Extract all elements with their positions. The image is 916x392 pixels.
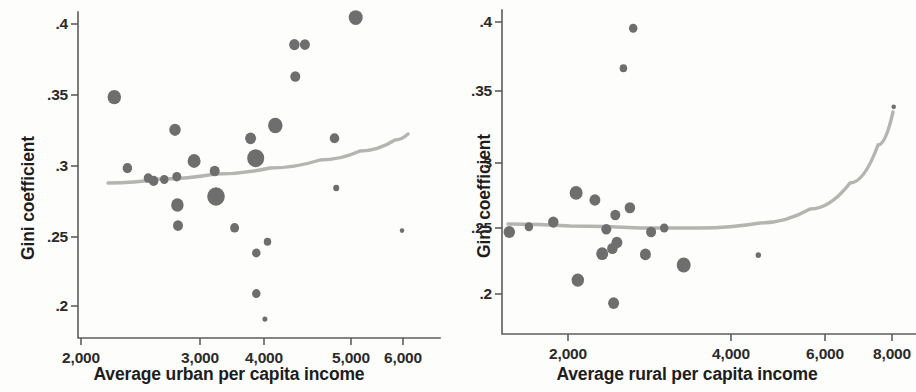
- data-point-bubble: [230, 223, 239, 233]
- data-point-bubble: [173, 220, 183, 231]
- x-axis-title: Average rural per capita income: [458, 364, 916, 385]
- data-point-bubble: [400, 228, 405, 233]
- x-axis-tick-label: 2,000: [549, 345, 587, 363]
- data-points: [504, 24, 896, 309]
- data-point-bubble: [245, 132, 256, 144]
- data-point-bubble: [289, 39, 300, 50]
- data-point-bubble: [504, 226, 516, 238]
- axes: [78, 12, 440, 338]
- x-axis-tick-label: 6,000: [806, 345, 844, 363]
- data-point-bubble: [268, 118, 283, 133]
- data-point-bubble: [149, 176, 159, 186]
- data-point-bubble: [525, 222, 534, 231]
- y-axis-title: Gini coefficient: [474, 134, 495, 258]
- data-points: [108, 10, 405, 322]
- data-point-bubble: [264, 238, 272, 246]
- x-axis-tick-label: 6,000: [384, 349, 422, 367]
- x-axis-tick-label: 2,000: [62, 349, 100, 367]
- data-point-bubble: [891, 104, 896, 109]
- fitted-trend-line: [508, 112, 893, 228]
- x-axis-tick-label: 3,000: [181, 349, 219, 367]
- data-point-bubble: [300, 39, 310, 50]
- data-point-bubble: [596, 247, 608, 260]
- chart-panel-urban: Gini coefficient Average urban per capit…: [0, 0, 458, 392]
- data-point-bubble: [570, 186, 583, 200]
- data-point-bubble: [108, 90, 122, 104]
- y-axis-tick-label: .25: [26, 228, 68, 246]
- y-axis-tick-label: .2: [26, 297, 68, 315]
- data-point-bubble: [160, 175, 169, 184]
- x-axis-tick-label: 4,000: [245, 349, 283, 367]
- axes: [502, 10, 916, 334]
- data-point-bubble: [210, 166, 220, 177]
- data-point-bubble: [601, 224, 611, 235]
- data-point-bubble: [611, 237, 622, 249]
- y-axis-tick-label: .3: [26, 157, 68, 175]
- data-point-bubble: [620, 64, 628, 72]
- data-point-bubble: [188, 154, 201, 168]
- data-point-bubble: [608, 297, 619, 309]
- data-point-bubble: [171, 198, 184, 211]
- data-point-bubble: [548, 217, 559, 228]
- data-point-bubble: [646, 227, 656, 238]
- data-point-bubble: [677, 258, 691, 273]
- x-axis-title: Average urban per capita income: [0, 364, 458, 385]
- data-point-bubble: [572, 273, 585, 286]
- data-point-bubble: [625, 202, 636, 213]
- y-axis-tick-label: .4: [450, 13, 492, 31]
- x-axis-ticks: [81, 338, 403, 345]
- data-point-bubble: [252, 248, 261, 257]
- y-axis-tick-label: .35: [26, 86, 68, 104]
- y-axis-tick-label: .25: [450, 219, 492, 237]
- data-point-bubble: [333, 185, 339, 191]
- data-point-bubble: [640, 249, 651, 261]
- y-axis-tick-label: .35: [450, 82, 492, 100]
- chart-canvas-rural: [458, 0, 916, 392]
- chart-canvas-urban: [0, 0, 458, 392]
- y-axis-tick-label: .2: [450, 285, 492, 303]
- data-point-bubble: [169, 124, 181, 136]
- y-axis-ticks: [71, 24, 78, 306]
- y-axis-tick-label: .3: [450, 154, 492, 172]
- data-point-bubble: [349, 10, 363, 25]
- data-point-bubble: [172, 172, 181, 182]
- x-axis-tick-label: 5,000: [332, 349, 370, 367]
- y-axis-tick-label: .4: [26, 15, 68, 33]
- data-point-bubble: [610, 210, 620, 221]
- chart-panel-rural: Gini coefficient Average rural per capit…: [458, 0, 916, 392]
- data-point-bubble: [629, 24, 638, 33]
- data-point-bubble: [207, 187, 225, 206]
- data-point-bubble: [589, 194, 600, 206]
- data-point-bubble: [330, 133, 340, 143]
- y-axis-ticks: [495, 22, 502, 294]
- data-point-bubble: [756, 252, 762, 258]
- x-axis-tick-label: 8,000: [873, 345, 911, 363]
- data-point-bubble: [660, 224, 669, 233]
- data-point-bubble: [262, 316, 267, 321]
- x-axis-tick-label: 4,000: [712, 345, 750, 363]
- x-axis-ticks: [568, 334, 892, 341]
- data-point-bubble: [290, 71, 300, 82]
- data-point-bubble: [247, 149, 264, 167]
- data-point-bubble: [123, 163, 132, 173]
- bubble-scatter-figure: Gini coefficient Average urban per capit…: [0, 0, 916, 392]
- data-point-bubble: [252, 289, 261, 298]
